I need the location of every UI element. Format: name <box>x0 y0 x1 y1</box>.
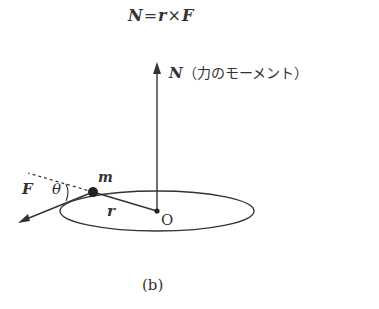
figure-caption: (b) <box>142 278 163 293</box>
torque-diagram <box>0 0 379 309</box>
torque-label-N: N <box>169 64 183 82</box>
formula-times: × <box>167 6 180 25</box>
origin-label: O <box>161 213 173 228</box>
formula-r: r <box>158 6 166 25</box>
radius-vector-line <box>93 192 157 211</box>
formula: N=r×F <box>128 8 193 24</box>
torque-description: （力のモーメント） <box>183 65 308 81</box>
formula-equals: = <box>144 6 157 25</box>
torque-arrowhead-icon <box>153 62 161 74</box>
force-label: F <box>22 182 33 197</box>
torque-label: N（力のモーメント） <box>169 66 308 81</box>
mass-label: m <box>98 170 113 184</box>
formula-F: F <box>182 6 193 25</box>
angle-arc <box>66 184 68 201</box>
radius-label: r <box>107 204 115 219</box>
origin-point <box>154 208 159 213</box>
mass-point <box>88 187 98 197</box>
force-arrowhead-icon <box>18 214 30 223</box>
angle-label: θ <box>52 182 61 197</box>
formula-N: N <box>128 6 143 25</box>
